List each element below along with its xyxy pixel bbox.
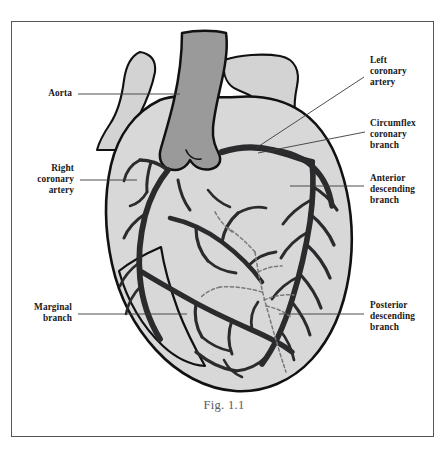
label-right-coronary-artery: Right coronary artery <box>0 163 74 197</box>
label-lca-line-2: coronary <box>370 66 446 77</box>
label-circumflex-line-1: Circumflex <box>370 118 446 129</box>
label-marginal-line-1: Marginal <box>0 302 72 313</box>
label-posterior-descending-branch: Posterior descending branch <box>370 300 446 334</box>
label-anterior-descending-branch: Anterior descending branch <box>370 173 446 207</box>
figure-caption: Fig. 1.1 <box>0 398 448 413</box>
figure-container: Aorta Right coronary artery Marginal bra… <box>0 0 448 453</box>
label-rca-line-1: Right <box>0 163 74 174</box>
label-lca-line-3: artery <box>370 77 446 88</box>
label-marginal-line-2: branch <box>0 313 72 324</box>
label-aorta: Aorta <box>0 88 72 99</box>
label-circumflex-line-2: coronary <box>370 129 446 140</box>
label-posterior-line-2: descending <box>370 311 446 322</box>
label-marginal-branch: Marginal branch <box>0 302 72 324</box>
label-posterior-line-3: branch <box>370 322 446 333</box>
label-aorta-line-1: Aorta <box>0 88 72 99</box>
label-left-coronary-artery: Left coronary artery <box>370 55 446 89</box>
label-anterior-line-3: branch <box>370 195 446 206</box>
label-rca-line-2: coronary <box>0 174 74 185</box>
label-circumflex-line-3: branch <box>370 140 446 151</box>
label-anterior-line-2: descending <box>370 184 446 195</box>
label-posterior-line-1: Posterior <box>370 300 446 311</box>
label-anterior-line-1: Anterior <box>370 173 446 184</box>
label-circumflex-coronary-branch: Circumflex coronary branch <box>370 118 446 152</box>
label-rca-line-3: artery <box>0 185 74 196</box>
label-lca-line-1: Left <box>370 55 446 66</box>
